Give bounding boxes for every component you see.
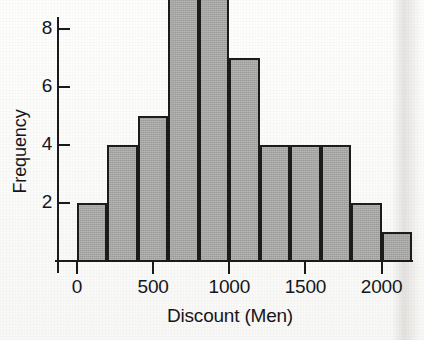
y-axis-tick: [59, 202, 70, 204]
bar-texture: [79, 205, 105, 260]
x-axis-tick: [304, 262, 306, 274]
x-axis-tick: [76, 262, 78, 274]
bar-texture: [201, 0, 227, 260]
histogram-bar: [321, 145, 351, 262]
y-axis-title: Frequency: [10, 77, 31, 227]
y-axis-tick: [59, 86, 70, 88]
x-axis-tick-label: 2000: [347, 276, 417, 298]
plot-area: 246810 0500100015002000 Frequency Discou…: [0, 0, 424, 340]
histogram-bar: [229, 58, 259, 262]
histogram-bar: [351, 203, 381, 262]
histogram-bar: [138, 116, 168, 262]
bar-texture: [140, 118, 166, 260]
bar-texture: [109, 147, 135, 260]
x-axis-tick-label: 0: [42, 276, 112, 298]
x-axis-tick: [381, 262, 383, 274]
bar-texture: [384, 234, 410, 260]
bar-texture: [231, 60, 257, 260]
x-axis-tick-label: 500: [118, 276, 188, 298]
x-axis-spine: [55, 260, 413, 262]
histogram-bar: [382, 232, 412, 262]
bar-texture: [323, 147, 349, 260]
x-axis-tick-label: 1500: [270, 276, 340, 298]
y-axis-tick-label: 8: [12, 17, 52, 39]
histogram-bar: [199, 0, 229, 262]
x-axis-title: Discount (Men): [120, 305, 340, 327]
bar-texture: [353, 205, 379, 260]
bar-texture: [170, 0, 196, 260]
y-axis-tick: [59, 28, 70, 30]
histogram-bar: [290, 145, 320, 262]
bar-texture: [262, 147, 288, 260]
x-axis-tick: [152, 262, 154, 274]
bar-texture: [292, 147, 318, 260]
x-axis-tick-label: 1000: [194, 276, 264, 298]
histogram-bar: [77, 203, 107, 262]
histogram-figure: 246810 0500100015002000 Frequency Discou…: [0, 0, 424, 340]
histogram-bar: [260, 145, 290, 262]
x-axis-tick: [228, 262, 230, 274]
y-axis-tick: [59, 144, 70, 146]
histogram-bar: [107, 145, 137, 262]
histogram-bar: [168, 0, 198, 262]
